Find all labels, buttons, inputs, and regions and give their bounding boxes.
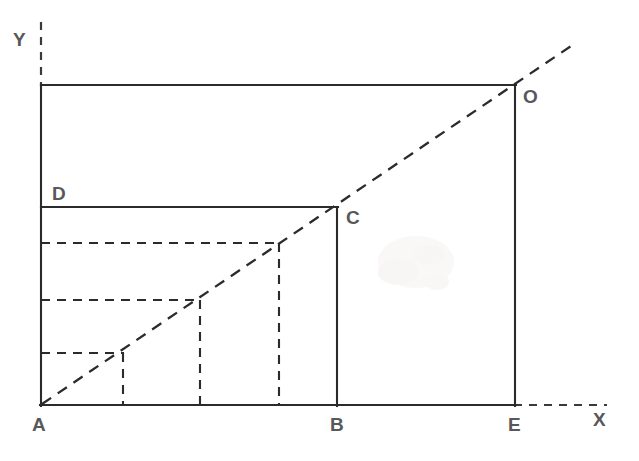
inner-rectangle bbox=[41, 207, 338, 406]
point-label-A: A bbox=[32, 414, 46, 435]
point-label-D: D bbox=[52, 183, 66, 204]
point-label-E: E bbox=[508, 414, 521, 435]
paper-watermark-group bbox=[378, 236, 454, 290]
dashed-rectangle-1 bbox=[41, 353, 124, 405]
geometry-figure: A B C D E O Y X bbox=[0, 0, 639, 461]
watermark-smudge-4 bbox=[425, 274, 449, 290]
y-axis-label: Y bbox=[13, 29, 26, 50]
watermark-smudge-2 bbox=[378, 259, 418, 285]
point-label-B: B bbox=[330, 414, 344, 435]
watermark-smudge-3 bbox=[414, 245, 446, 265]
x-axis-label: X bbox=[593, 409, 606, 430]
diagram-canvas: A B C D E O Y X bbox=[0, 0, 639, 461]
point-label-O: O bbox=[523, 86, 538, 107]
point-label-C: C bbox=[346, 207, 360, 228]
diagonal-ray bbox=[42, 44, 574, 404]
